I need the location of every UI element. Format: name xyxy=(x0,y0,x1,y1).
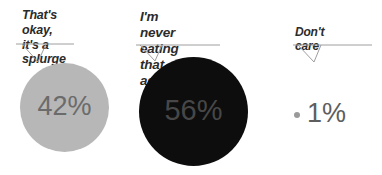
leader-line-dont-care xyxy=(293,42,377,66)
bubble-dont-care-group: 1% xyxy=(294,100,346,127)
bubble-value-splurge: 42% xyxy=(37,93,91,120)
bubble-splurge: 42% xyxy=(20,63,109,152)
bubble-dont-care xyxy=(294,112,300,118)
bubble-chart-canvas: That's okay, it's a splurge 42% I'm neve… xyxy=(0,0,382,175)
bubble-value-never-again: 56% xyxy=(164,96,222,125)
leader-line-splurge xyxy=(16,40,80,66)
bubble-value-dont-care: 1% xyxy=(307,100,346,127)
bubble-never-again: 56% xyxy=(139,57,248,166)
